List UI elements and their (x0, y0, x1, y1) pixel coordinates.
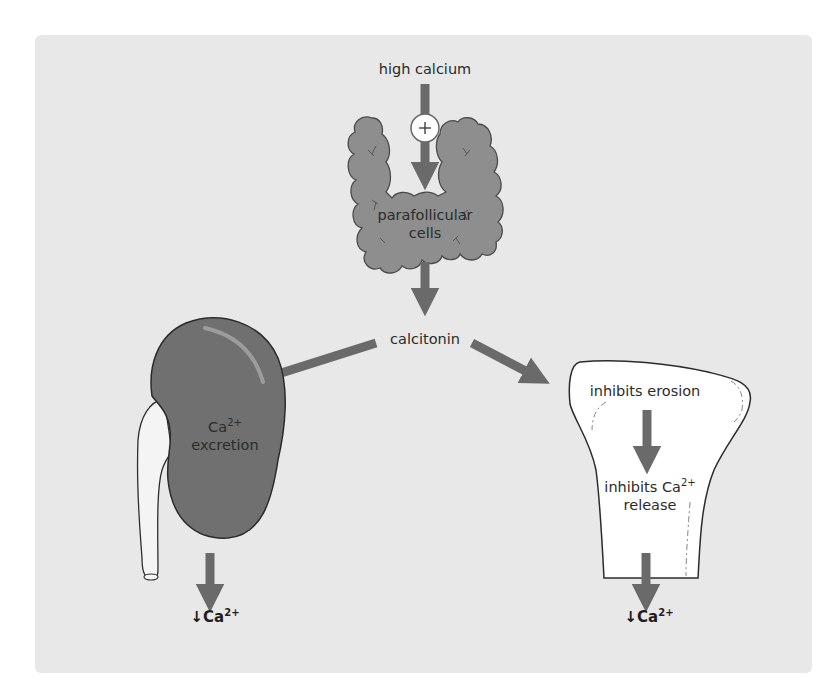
label-high-calcium: high calcium (375, 60, 475, 78)
label-inhibits-erosion: inhibits erosion (585, 382, 705, 400)
kidney-ca-charge: 2+ (227, 417, 242, 428)
gland-label-line1: parafollicular (365, 206, 485, 224)
label-bone-result: ↓Ca2+ (614, 608, 684, 626)
label-high-calcium-text: high calcium (379, 61, 471, 77)
gland-label-line2: cells (365, 224, 485, 242)
calcitonin-text: calcitonin (390, 331, 460, 347)
label-kidney-excretion: Ca2+ excretion (180, 418, 270, 454)
release-text: release (595, 496, 705, 514)
kidney-result-charge: 2+ (224, 607, 239, 618)
label-parafollicular-cells: parafollicular cells (365, 206, 485, 242)
bone-result-text: ↓Ca (624, 608, 658, 626)
kidney-result-text: ↓Ca (190, 608, 224, 626)
kidney-excretion-text: excretion (180, 436, 270, 454)
label-inhibits-release: inhibits Ca2+ release (595, 478, 705, 514)
label-calcitonin: calcitonin (375, 330, 475, 348)
kidney-ca-text: Ca (208, 419, 227, 435)
bone-result-charge: 2+ (658, 607, 673, 618)
label-kidney-result: ↓Ca2+ (180, 608, 250, 626)
inhibits-erosion-text: inhibits erosion (590, 383, 701, 399)
inhibits-ca-charge: 2+ (681, 477, 696, 488)
inhibits-ca-text: inhibits Ca (604, 479, 681, 495)
positive-sign-icon (411, 114, 439, 142)
arrow-calcitonin-to-bone (472, 343, 537, 377)
